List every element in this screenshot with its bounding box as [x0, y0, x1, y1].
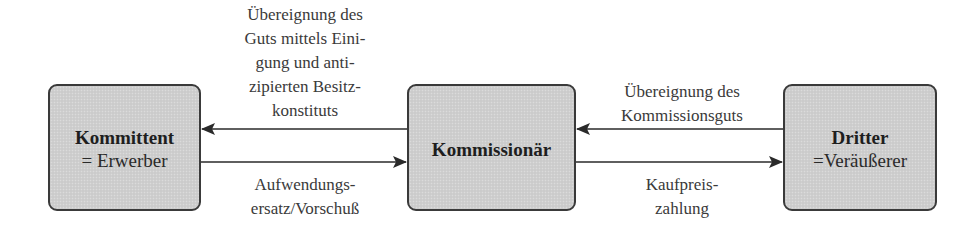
node-kommittent: Kommittent = Erwerber [48, 84, 201, 211]
node-title: Kommittent [75, 126, 174, 149]
label-line: Kaufpreis- [592, 173, 772, 197]
label-line: zipierten Besitz- [222, 75, 388, 99]
label-line: ersatz/Vorschuß [222, 197, 388, 221]
edge-label-aufwendungsersatz: Aufwendungs- ersatz/Vorschuß [222, 173, 388, 221]
label-line: Guts mittels Eini- [222, 27, 388, 51]
node-dritter: Dritter =Veräußerer [783, 84, 937, 211]
node-kommissionaer: Kommissionär [407, 84, 576, 211]
edge-label-uebereignung-guts: Übereignung des Guts mittels Eini- gung … [222, 3, 388, 123]
node-subtitle: =Veräußerer [813, 149, 907, 172]
label-line: Aufwendungs- [222, 173, 388, 197]
node-title: Kommissionär [432, 138, 551, 161]
edge-label-uebereignung-kommissionsguts: Übereignung des Kommissionsguts [592, 80, 772, 128]
label-line: gung und anti- [222, 51, 388, 75]
label-line: zahlung [592, 197, 772, 221]
label-line: Übereignung des [222, 3, 388, 27]
node-title: Dritter [813, 126, 907, 149]
label-line: konstituts [222, 99, 388, 123]
commission-transaction-diagram: Kommittent = Erwerber Kommissionär Dritt… [0, 0, 977, 231]
node-subtitle: = Erwerber [75, 149, 174, 172]
label-line: Kommissionsguts [592, 104, 772, 128]
edge-label-kaufpreiszahlung: Kaufpreis- zahlung [592, 173, 772, 221]
label-line: Übereignung des [592, 80, 772, 104]
